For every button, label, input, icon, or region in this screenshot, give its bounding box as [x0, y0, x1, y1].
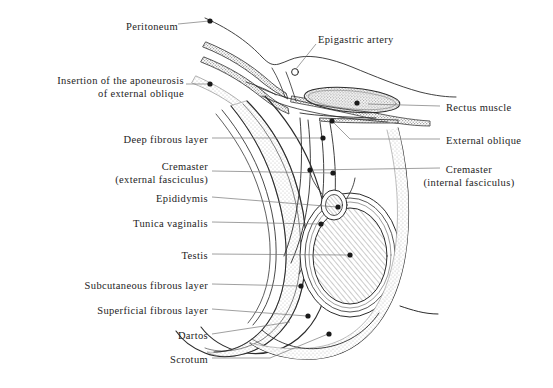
dot-peritoneum [207, 18, 212, 23]
label-external-oblique: External oblique [446, 135, 521, 148]
label-epigastric-artery: Epigastric artery [318, 34, 394, 47]
leader-epididymis [212, 197, 337, 207]
dot-subcutaneous [298, 283, 303, 288]
dot-tunica [318, 221, 323, 226]
dot-insertion [207, 81, 212, 86]
dot-cremaster-ext [330, 170, 335, 175]
label-peritoneum: Peritoneum [0, 21, 178, 34]
label-cremaster-internal: Cremaster (internal fasciculus) [385, 164, 553, 189]
dot-testis [347, 252, 352, 257]
label-epididymis: Epididymis [0, 193, 208, 206]
dot-deep-fibrous [320, 135, 325, 140]
label-insertion-aponeurosis: Insertion of the aponeurosis of external… [0, 75, 184, 100]
label-rectus-muscle: Rectus muscle [446, 102, 512, 115]
scrotum-tail-line [400, 306, 438, 314]
leader-ext-oblique-b [332, 121, 350, 139]
label-superficial-fibrous-layer: Superficial fibrous layer [0, 305, 208, 318]
dot-scrotum [326, 331, 331, 336]
rectus-muscle-structure [303, 84, 401, 116]
dot-cremaster-int [307, 167, 312, 172]
dot-ext-oblique [329, 118, 334, 123]
dot-rectus [354, 100, 359, 105]
label-deep-fibrous-layer: Deep fibrous layer [0, 134, 208, 147]
label-dartos: Dartos [0, 330, 208, 343]
peritoneum-structure [205, 18, 456, 97]
label-tunica-vaginalis: Tunica vaginalis [0, 218, 208, 231]
dot-epididymis [335, 204, 340, 209]
figure-page: Peritoneum Insertion of the aponeurosis … [0, 0, 553, 388]
dot-superficial [305, 313, 310, 318]
subcutaneous-fibrous-layer-structure [207, 101, 306, 356]
label-subcutaneous-fibrous-layer: Subcutaneous fibrous layer [0, 280, 208, 293]
leader-peritoneum [178, 21, 209, 24]
label-cremaster-external: Cremaster (external fasciculus) [0, 161, 208, 186]
label-testis: Testis [0, 250, 208, 263]
label-scrotum: Scrotum [0, 354, 208, 367]
